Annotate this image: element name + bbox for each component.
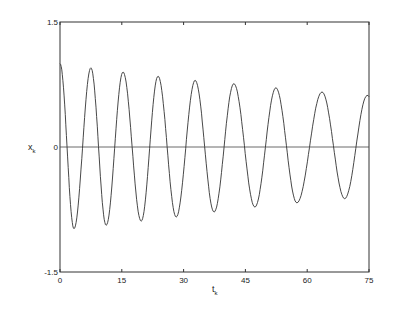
x-tick-label: 45 [241,276,250,285]
x-axis-ticks: 01530456075 [58,22,374,285]
y-axis-label-sub: k [33,148,37,154]
y-tick-label: -1.5 [44,268,58,277]
y-axis-ticks: 1.50-1.5 [44,18,58,277]
y-tick-label: 0 [54,143,59,152]
y-axis-label: xk [28,142,37,154]
y-tick-label: 1.5 [47,18,59,27]
x-tick-label: 30 [179,276,188,285]
x-axis-label-sub: k [215,290,219,296]
x-tick-label: 60 [303,276,312,285]
chart: 01530456075 1.50-1.5 xk tk [0,0,393,314]
x-tick-label: 0 [58,276,63,285]
x-tick-label: 15 [117,276,126,285]
data-line [60,64,369,229]
x-tick-label: 75 [365,276,374,285]
x-axis-label: tk [212,284,219,296]
